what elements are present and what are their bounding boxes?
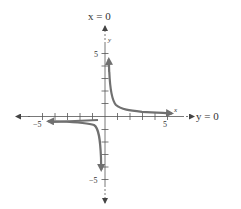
hyperbola-plot: x = 0 y = 0 y x −5 5 5 −5	[0, 0, 241, 209]
curve-branch-negative-body	[60, 122, 101, 171]
horizontal-asymptote-label: y = 0	[196, 110, 219, 122]
x-tick-label-neg5: −5	[33, 120, 42, 129]
curve-branch-positive-body	[109, 72, 172, 113]
x-tick-label-pos5: 5	[163, 120, 167, 129]
y-tick-label-neg5: −5	[89, 176, 98, 185]
x-axis-label: x	[173, 106, 178, 114]
y-tick-label-pos5: 5	[94, 50, 98, 59]
vertical-asymptote-label: x = 0	[88, 10, 111, 22]
y-axis-label: y	[107, 36, 112, 44]
